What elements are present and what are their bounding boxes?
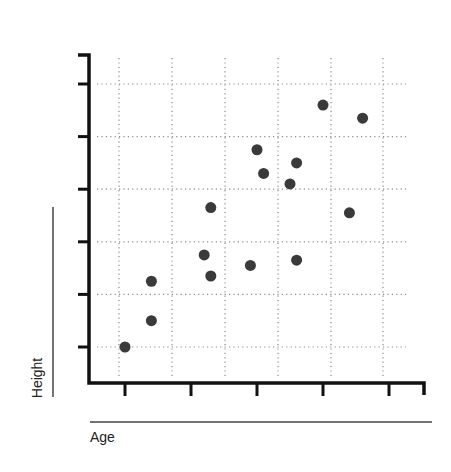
data-point [205,270,216,281]
data-point [291,157,302,168]
data-point [146,315,157,326]
data-point [291,255,302,266]
x-axis-title: Age [90,430,115,444]
data-point [357,113,368,124]
data-point [252,144,263,155]
data-point [245,260,256,271]
data-point [205,202,216,213]
data-point [285,178,296,189]
axis-lines [78,55,424,395]
y-axis-title: Height [30,358,44,398]
grid [97,58,406,377]
data-point [120,342,131,353]
data-point [258,168,269,179]
scatter-chart: Age Height [0,0,451,472]
axis-title-rules [53,207,432,422]
data-point [146,276,157,287]
data-point [318,100,329,111]
chart-canvas [0,0,451,472]
data-point [344,207,355,218]
data-point [199,249,210,260]
